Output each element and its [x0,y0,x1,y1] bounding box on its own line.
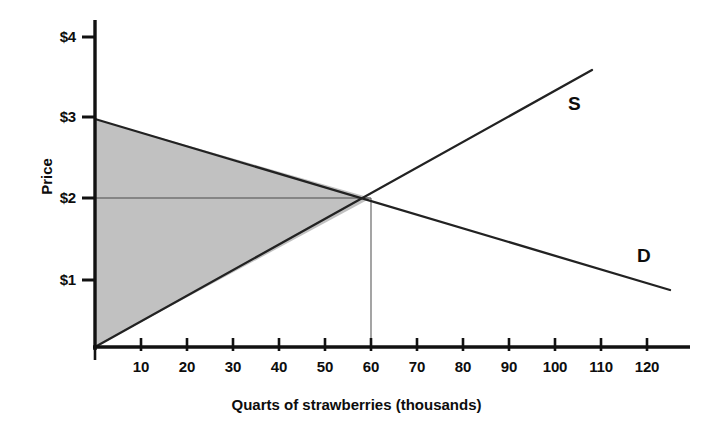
supply-curve-label: S [568,93,581,115]
supply-demand-chart: $1 $2 $3 $4 10 20 30 40 50 60 70 80 90 1… [0,0,713,434]
y-tick-label-1: $1 [34,271,76,288]
x-tick-label-50: 50 [305,358,345,375]
x-tick-label-120: 120 [627,358,667,375]
x-axis-title: Quarts of strawberries (thousands) [0,396,713,413]
x-tick-label-110: 110 [581,358,621,375]
y-axis-title: Price [38,147,55,207]
shaded-region [95,119,371,347]
y-axis-ticks [82,37,95,280]
x-tick-label-10: 10 [121,358,161,375]
x-tick-label-40: 40 [259,358,299,375]
x-tick-label-60: 60 [351,358,391,375]
x-axis-ticks [95,338,647,360]
x-tick-label-30: 30 [213,358,253,375]
x-tick-label-90: 90 [489,358,529,375]
x-tick-label-80: 80 [443,358,483,375]
x-tick-label-20: 20 [167,358,207,375]
x-tick-label-70: 70 [397,358,437,375]
y-tick-label-3: $3 [34,108,76,125]
demand-curve-label: D [637,245,651,267]
y-tick-label-4: $4 [34,28,76,45]
x-tick-label-100: 100 [535,358,575,375]
